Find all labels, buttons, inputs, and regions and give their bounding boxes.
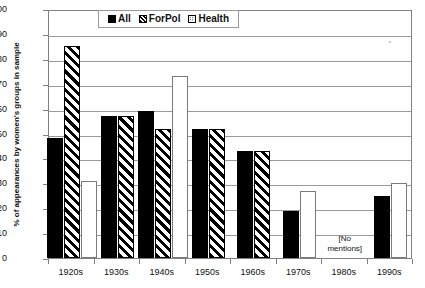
x-tick-mark [139,259,140,264]
bar-health-1970s [300,191,316,258]
bar-all-1930s [101,116,117,258]
bar-all-1960s [237,151,253,258]
x-tick-label-1930s: 1930s [94,268,140,277]
legend-item-all: All [108,14,131,24]
x-tick-mark [48,259,49,264]
x-tick-label-1970s: 1970s [276,268,322,277]
x-tick-label-1960s: 1960s [230,268,276,277]
y-tick-label: 90 [0,30,7,39]
y-tick-label: 100 [0,5,7,14]
bar-forpol-1940s [155,129,171,258]
bar-all-1950s [192,129,208,258]
legend-item-health: Health [188,14,229,24]
y-tick-label: 70 [0,80,7,89]
x-tick-mark [94,259,95,264]
x-tick-label-1950s: 1950s [185,268,231,277]
x-tick-mark [367,259,368,264]
bar-health-1940s [172,76,188,258]
bar-forpol-1950s [209,129,225,258]
legend-label-forpol: ForPol [149,14,181,24]
bar-health-1920s [81,181,97,258]
gridline [49,86,411,87]
bar-all-1940s [138,111,154,258]
y-tick-label: 20 [0,204,7,213]
legend-label-all: All [118,14,131,24]
x-tick-label-1980s: 1980s [321,268,367,277]
gridline [49,111,411,112]
x-tick-mark [321,259,322,264]
y-tick-label: 0 [0,254,7,263]
dotted-swatch-icon [188,15,196,23]
x-tick-label-1990s: 1990s [367,268,413,277]
scan-speck [389,41,391,43]
bar-all-1990s [374,196,390,258]
x-tick-mark [412,259,413,264]
legend-item-forpol: ForPol [139,14,181,24]
bar-chart: % of appearances by women's groups in sa… [0,0,425,288]
y-tick-label: 60 [0,105,7,114]
bar-forpol-1920s [64,46,80,258]
gridline [49,61,411,62]
bar-forpol-1960s [254,151,270,258]
x-tick-mark [185,259,186,264]
y-axis-title: % of appearances by women's groups in sa… [12,35,21,235]
gridline [49,36,411,37]
diagonal-hatch-swatch-icon [139,15,147,23]
bar-forpol-1930s [118,116,134,258]
y-tick-label: 10 [0,229,7,238]
x-tick-label-1920s: 1920s [48,268,94,277]
plot-area: [No mentions] [48,10,412,259]
bar-all-1970s [283,211,299,258]
x-tick-label-1940s: 1940s [139,268,185,277]
x-tick-mark [276,259,277,264]
solid-black-swatch-icon [108,15,116,23]
legend-label-health: Health [198,14,229,24]
y-tick-label: 30 [0,179,7,188]
chart-legend: All ForPol Health [98,10,239,28]
no-mentions-annotation: [No mentions] [322,234,368,254]
bar-all-1920s [47,138,63,258]
y-tick-label: 80 [0,55,7,64]
y-tick-label: 40 [0,154,7,163]
x-tick-mark [230,259,231,264]
bar-health-1990s [391,183,407,258]
y-tick-label: 50 [0,130,7,139]
